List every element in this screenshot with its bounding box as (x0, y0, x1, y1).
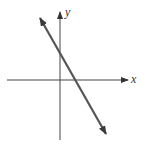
coordinate-plane: x y (0, 0, 147, 144)
graph-svg (0, 0, 147, 144)
graphed-line (40, 18, 106, 134)
y-axis-label: y (65, 6, 70, 18)
x-axis-label: x (131, 73, 136, 85)
